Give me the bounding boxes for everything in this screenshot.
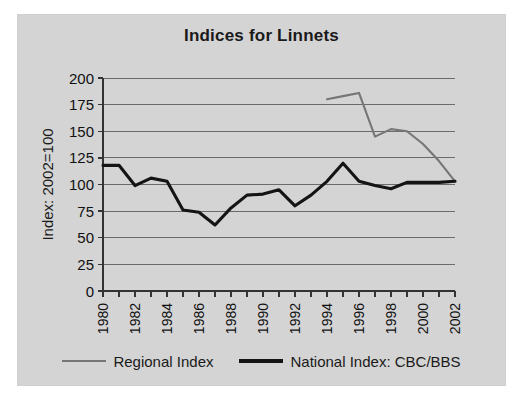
chart-page: Indices for Linnets 02550751001251501752… (0, 0, 519, 402)
y-axis-title: Index: 2002=100 (39, 128, 56, 240)
legend-item-national: National Index: CBC/BBS (239, 353, 460, 370)
plot-svg: 0255075100125150175200 19801982198419861… (17, 14, 506, 386)
y-tick-label-200: 200 (69, 70, 94, 87)
legend-label-regional: Regional Index (113, 353, 213, 370)
legend-item-regional: Regional Index (62, 353, 213, 370)
y-axis-title-text: Index: 2002=100 (39, 128, 56, 240)
legend-line-national-icon (239, 359, 283, 363)
x-tick-label-1998: 1998 (383, 303, 399, 334)
y-tick-label-75: 75 (77, 203, 94, 220)
plot-area: 0255075100125150175200 19801982198419861… (17, 14, 506, 386)
x-tick-label-1988: 1988 (223, 303, 239, 334)
y-tick-label-50: 50 (77, 229, 94, 246)
x-tick-label-1986: 1986 (191, 303, 207, 334)
y-tick-label-125: 125 (69, 149, 94, 166)
data-series (103, 93, 455, 225)
y-axis-ticks: 0255075100125150175200 (69, 70, 103, 300)
series-line-national-index-cbc-bbs (103, 163, 455, 225)
x-tick-label-1982: 1982 (127, 303, 143, 334)
x-axis-ticks: 1980198219841986198819901992199419961998… (95, 291, 463, 334)
legend-label-national: National Index: CBC/BBS (290, 353, 460, 370)
y-tick-label-25: 25 (77, 256, 94, 273)
y-tick-label-0: 0 (86, 283, 94, 300)
y-tick-label-175: 175 (69, 96, 94, 113)
x-tick-label-1980: 1980 (95, 303, 111, 334)
legend-line-regional-icon (62, 360, 106, 362)
x-tick-label-1994: 1994 (319, 303, 335, 334)
chart-frame: Indices for Linnets 02550751001251501752… (17, 14, 506, 386)
x-tick-label-2000: 2000 (415, 303, 431, 334)
y-tick-label-150: 150 (69, 123, 94, 140)
x-tick-label-1990: 1990 (255, 303, 271, 334)
x-tick-label-1992: 1992 (287, 303, 303, 334)
y-tick-label-100: 100 (69, 176, 94, 193)
x-tick-label-2002: 2002 (447, 303, 463, 334)
x-tick-label-1996: 1996 (351, 303, 367, 334)
x-tick-label-1984: 1984 (159, 303, 175, 334)
chart-legend: Regional Index National Index: CBC/BBS (17, 346, 506, 376)
